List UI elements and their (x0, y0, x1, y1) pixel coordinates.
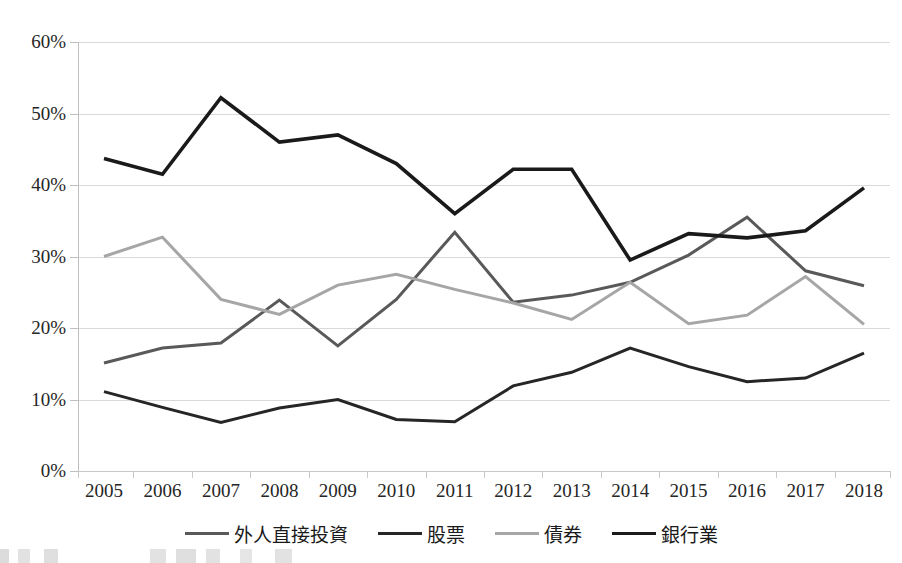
chart-legend: 外人直接投資股票債券銀行業 (0, 516, 902, 550)
legend-item-銀行業[interactable]: 銀行業 (612, 520, 718, 547)
legend-label: 銀行業 (661, 520, 718, 547)
legend-line-swatch-icon (612, 532, 656, 535)
legend-item-外人直接投資[interactable]: 外人直接投資 (185, 520, 348, 547)
series-line-銀行業 (104, 98, 864, 260)
legend-label: 股票 (427, 520, 465, 547)
series-line-債券 (104, 237, 864, 324)
legend-line-swatch-icon (378, 532, 422, 535)
legend-line-swatch-icon (495, 532, 539, 535)
legend-label: 外人直接投資 (234, 520, 348, 547)
chart-container: 0%10%20%30%40%50%60% 2005200620072008200… (0, 0, 902, 563)
legend-item-債券[interactable]: 債券 (495, 520, 582, 547)
legend-item-股票[interactable]: 股票 (378, 520, 465, 547)
footer-text-fragment (0, 549, 320, 563)
legend-line-swatch-icon (185, 532, 229, 535)
legend-label: 債券 (544, 520, 582, 547)
series-line-股票 (104, 348, 864, 422)
series-layer (0, 0, 902, 563)
